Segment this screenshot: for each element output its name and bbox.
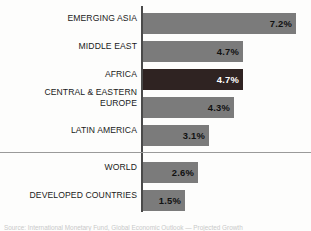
bar: 4.7% <box>143 41 243 62</box>
category-label: DEVELOPED COUNTRIES <box>5 190 137 201</box>
bar-value-label: 4.3% <box>208 97 230 118</box>
source-note: Source: International Monetary Fund, Glo… <box>4 224 309 231</box>
bar-row: WORLD2.6% <box>0 162 311 183</box>
bar-row: DEVELOPED COUNTRIES1.5% <box>0 190 311 211</box>
bar: 4.3% <box>143 97 234 118</box>
bar-value-label: 4.7% <box>217 41 239 62</box>
bar-row: CENTRAL & EASTERN EUROPE4.3% <box>0 97 311 118</box>
bar: 2.6% <box>143 162 198 183</box>
category-label: CENTRAL & EASTERN EUROPE <box>5 87 137 108</box>
bar-row: LATIN AMERICA3.1% <box>0 125 311 146</box>
bar: 1.5% <box>143 190 185 211</box>
category-label: WORLD <box>5 162 137 173</box>
category-label: LATIN AMERICA <box>5 125 137 136</box>
bar-chart: EMERGING ASIA7.2%MIDDLE EAST4.7%AFRICA4.… <box>0 0 311 231</box>
bar-value-label: 2.6% <box>172 162 194 183</box>
bar-value-label: 4.7% <box>217 69 239 90</box>
bar-row: MIDDLE EAST4.7% <box>0 41 311 62</box>
category-label: EMERGING ASIA <box>5 13 137 24</box>
group-separator <box>0 152 311 153</box>
bar-row: EMERGING ASIA7.2% <box>0 13 311 34</box>
bar-value-label: 1.5% <box>159 190 181 211</box>
category-label: AFRICA <box>5 69 137 80</box>
bar: 3.1% <box>143 125 209 146</box>
bar-value-label: 7.2% <box>270 13 292 34</box>
bar-highlighted: 4.7% <box>143 69 243 90</box>
bar-value-label: 3.1% <box>183 125 205 146</box>
bar: 7.2% <box>143 13 296 34</box>
category-label: MIDDLE EAST <box>5 41 137 52</box>
